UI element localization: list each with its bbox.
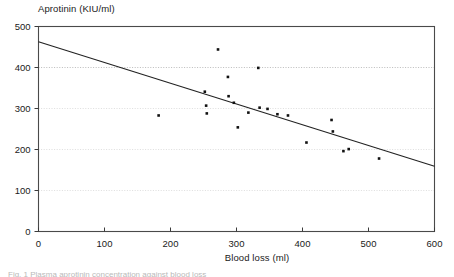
- data-point-16: [330, 119, 333, 122]
- ytick-label-200: 200: [15, 144, 31, 155]
- data-point-6: [227, 95, 230, 98]
- data-point-2: [205, 104, 208, 107]
- ytick-label-500: 500: [15, 21, 31, 32]
- data-point-12: [266, 108, 269, 111]
- fit-line: [39, 42, 435, 167]
- gridlines: [39, 27, 435, 191]
- data-point-11: [258, 106, 261, 109]
- ytick-label-300: 300: [15, 103, 31, 114]
- plot-frame: [39, 27, 435, 232]
- data-points: [157, 48, 380, 160]
- xtick-label-0: 0: [36, 238, 41, 249]
- ytick-label-100: 100: [15, 185, 31, 196]
- regression-line: [39, 42, 435, 167]
- xtick-label-400: 400: [295, 238, 311, 249]
- xtick-label-600: 600: [427, 238, 443, 249]
- x-axis-title-text: Blood loss (ml): [225, 252, 289, 263]
- xtick-label-300: 300: [229, 238, 245, 249]
- data-point-20: [378, 157, 381, 160]
- scatter-plot: 01002003004005000100200300400500600: [0, 0, 454, 277]
- figure-caption: Fig. 1 Plasma aprotinin concentration ag…: [8, 270, 448, 277]
- data-point-8: [237, 126, 240, 129]
- ytick-label-400: 400: [15, 62, 31, 73]
- data-point-5: [227, 76, 230, 79]
- data-point-15: [305, 141, 308, 144]
- data-point-1: [204, 90, 207, 93]
- axis-ticks: [35, 27, 435, 232]
- axes-frame: [39, 27, 435, 232]
- data-point-4: [217, 48, 220, 51]
- xtick-label-200: 200: [163, 238, 179, 249]
- data-point-17: [332, 130, 335, 133]
- data-point-3: [206, 112, 209, 115]
- data-point-7: [233, 101, 236, 104]
- data-point-13: [276, 113, 279, 116]
- ytick-label-0: 0: [25, 226, 30, 237]
- data-point-14: [287, 114, 290, 117]
- data-point-0: [157, 114, 160, 117]
- data-point-9: [247, 111, 250, 114]
- data-point-10: [257, 67, 260, 70]
- data-point-18: [342, 150, 345, 153]
- axis-tick-labels: 01002003004005000100200300400500600: [15, 21, 443, 249]
- figure-container: Aprotinin (KIU/ml) 010020030040050001002…: [0, 0, 454, 277]
- xtick-label-100: 100: [97, 238, 113, 249]
- x-axis-title: Blood loss (ml): [0, 252, 454, 263]
- xtick-label-500: 500: [361, 238, 377, 249]
- data-point-19: [347, 148, 350, 151]
